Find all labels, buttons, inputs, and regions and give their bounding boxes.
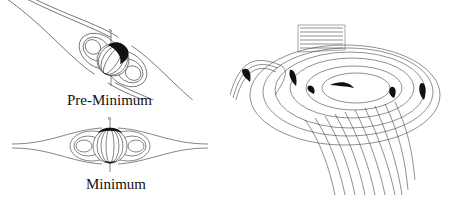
pre-minimum-field-lines: N — [0, 0, 230, 100]
pre-minimum-caption: Pre-Minimum — [67, 92, 152, 109]
pre-minimum-diagram: N Pre-Minimum — [0, 0, 230, 100]
minimum-diagram: N Minimum — [0, 112, 230, 203]
current-sheet-surface — [230, 0, 461, 203]
north-pole-label: N — [109, 28, 112, 33]
wire-mesh-surface — [230, 0, 461, 203]
minimum-field-lines: N — [0, 112, 230, 182]
north-pole-label: N — [108, 116, 111, 121]
minimum-caption: Minimum — [86, 176, 146, 193]
